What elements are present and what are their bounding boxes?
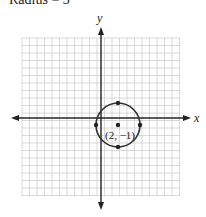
coordinate-plane: y x (2, −1) [0, 0, 206, 217]
center-label: (2, −1) [105, 129, 135, 142]
x-axis-left-arrow-icon [11, 115, 19, 121]
point-bottom [116, 145, 120, 149]
y-axis-top-arrow-icon [98, 27, 104, 35]
point-left [94, 123, 98, 127]
point-top [116, 101, 120, 105]
x-axis-right-arrow-icon [183, 115, 191, 121]
x-axis-label: x [193, 111, 200, 125]
y-axis-label: y [96, 11, 103, 25]
center-point [116, 123, 120, 127]
point-right [138, 123, 142, 127]
y-axis-bottom-arrow-icon [98, 202, 104, 210]
